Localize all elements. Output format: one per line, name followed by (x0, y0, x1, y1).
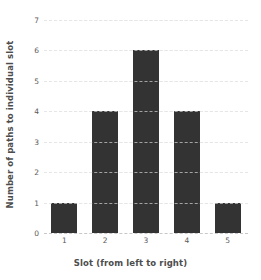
y-axis-label: Number of paths to individual slot (3, 12, 17, 237)
bar (51, 203, 77, 233)
bar (133, 50, 159, 233)
plot-area: 01234567 (44, 20, 248, 233)
y-tick-label: 3 (34, 137, 39, 146)
y-tick-label: 1 (34, 198, 39, 207)
bar (92, 111, 118, 233)
bar-chart-figure: Number of paths to individual slot 01234… (0, 0, 261, 280)
y-tick-label: 0 (34, 229, 39, 238)
x-tick-label: 3 (126, 236, 167, 245)
x-axis-ticks: 12345 (44, 236, 248, 245)
x-tick-label: 2 (85, 236, 126, 245)
bar-slot (126, 20, 167, 233)
bar-slot (44, 20, 85, 233)
bar-slot (207, 20, 248, 233)
x-tick-label: 4 (166, 236, 207, 245)
bar-slot (166, 20, 207, 233)
gridline (44, 233, 248, 234)
x-tick-label: 1 (44, 236, 85, 245)
bar (215, 203, 241, 233)
bar-series (44, 20, 248, 233)
y-tick-label: 6 (34, 46, 39, 55)
bar (174, 111, 200, 233)
y-tick-label: 5 (34, 76, 39, 85)
x-tick-label: 5 (207, 236, 248, 245)
bar-slot (85, 20, 126, 233)
x-axis-label: Slot (from left to right) (0, 258, 261, 268)
y-tick-label: 4 (34, 107, 39, 116)
y-tick-label: 7 (34, 16, 39, 25)
y-tick-label: 2 (34, 168, 39, 177)
